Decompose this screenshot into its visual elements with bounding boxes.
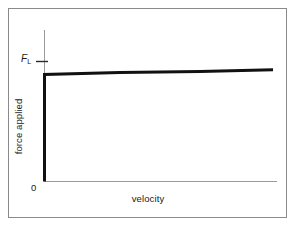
x-axis-label: velocity	[0, 193, 296, 204]
force-velocity-curve	[45, 70, 274, 182]
y-tick-label-fl: FL	[21, 53, 31, 65]
figure-container: FL 0 force applied velocity	[0, 0, 296, 227]
origin-label: 0	[31, 182, 36, 193]
y-axis-label: force applied	[13, 87, 24, 167]
fl-subscript: L	[27, 58, 31, 65]
